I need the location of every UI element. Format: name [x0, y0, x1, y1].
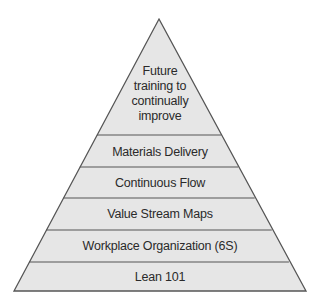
level-materials-delivery: Materials Delivery — [112, 145, 209, 159]
svg-text:Future: Future — [143, 64, 178, 78]
level-value-stream-maps: Value Stream Maps — [107, 207, 212, 221]
level-continuous-flow: Continuous Flow — [115, 176, 206, 190]
svg-text:improve: improve — [138, 109, 181, 123]
level-lean-101: Lean 101 — [135, 270, 186, 284]
svg-text:continually: continually — [132, 94, 190, 108]
svg-text:training to: training to — [134, 79, 187, 93]
level-workplace-organization: Workplace Organization (6S) — [83, 239, 238, 253]
pyramid-diagram: Future training to continually improve M… — [0, 0, 326, 306]
